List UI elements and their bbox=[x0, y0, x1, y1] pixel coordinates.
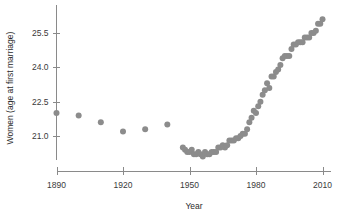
data-point bbox=[286, 53, 292, 59]
x-axis-ticks: 18901920195019802010 bbox=[47, 167, 332, 190]
chart-figure: 21.022.524.025.5 18901920195019802010 Ye… bbox=[0, 0, 341, 217]
axes bbox=[57, 5, 332, 172]
y-axis-ticks: 21.022.524.025.5 bbox=[32, 28, 60, 141]
data-point bbox=[313, 28, 319, 34]
y-tick-label: 22.5 bbox=[32, 97, 49, 107]
data-point bbox=[120, 128, 126, 134]
data-point bbox=[244, 126, 250, 132]
y-axis-title: Women (age at first marriage) bbox=[5, 31, 15, 144]
data-point bbox=[257, 99, 263, 105]
scatter-plot: 21.022.524.025.5 18901920195019802010 Ye… bbox=[0, 0, 341, 217]
data-points bbox=[54, 16, 326, 159]
x-axis-title: Year bbox=[185, 201, 202, 211]
y-tick-label: 21.0 bbox=[32, 131, 49, 141]
data-point bbox=[249, 115, 255, 121]
data-point bbox=[98, 119, 104, 125]
data-point bbox=[320, 16, 326, 22]
data-point bbox=[164, 122, 170, 128]
data-point bbox=[142, 126, 148, 132]
x-tick-label: 1920 bbox=[114, 180, 133, 190]
data-point bbox=[266, 85, 272, 91]
y-tick-label: 24.0 bbox=[32, 62, 49, 72]
x-tick-label: 1950 bbox=[180, 180, 199, 190]
x-tick-label: 1980 bbox=[247, 180, 266, 190]
data-point bbox=[253, 110, 259, 116]
x-tick-label: 2010 bbox=[313, 180, 332, 190]
y-tick-label: 25.5 bbox=[32, 28, 49, 38]
data-point bbox=[54, 110, 60, 116]
data-point bbox=[277, 62, 283, 68]
data-point bbox=[76, 112, 82, 118]
x-tick-label: 1890 bbox=[47, 180, 66, 190]
